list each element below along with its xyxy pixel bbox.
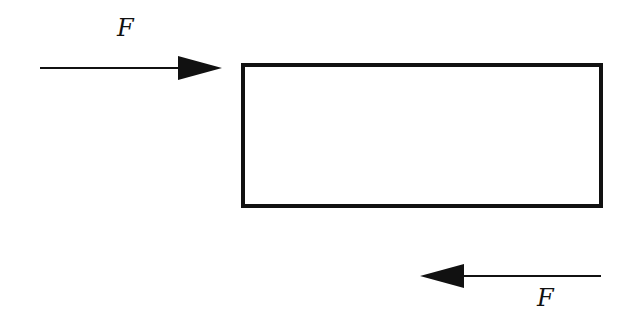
force-label-top: F <box>117 14 134 42</box>
block-rectangle <box>243 65 601 206</box>
force-label-bottom: F <box>537 284 554 312</box>
force-arrow-right <box>40 56 222 80</box>
diagram-canvas <box>0 0 635 331</box>
force-arrow-left <box>420 264 601 288</box>
